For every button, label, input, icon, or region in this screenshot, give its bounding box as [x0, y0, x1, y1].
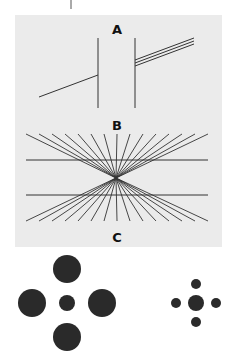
panel-a-label: A	[112, 22, 122, 37]
panel-b-drawing	[26, 134, 208, 221]
panel-c-small-surround	[171, 279, 221, 327]
illusion-figure: A B C	[0, 0, 236, 361]
panel-c-label: C	[112, 230, 122, 245]
panel-c-large-surround	[18, 255, 116, 351]
figure-drawing	[0, 0, 236, 361]
panel-b-label: B	[112, 118, 122, 133]
panel-a-drawing	[39, 38, 194, 108]
